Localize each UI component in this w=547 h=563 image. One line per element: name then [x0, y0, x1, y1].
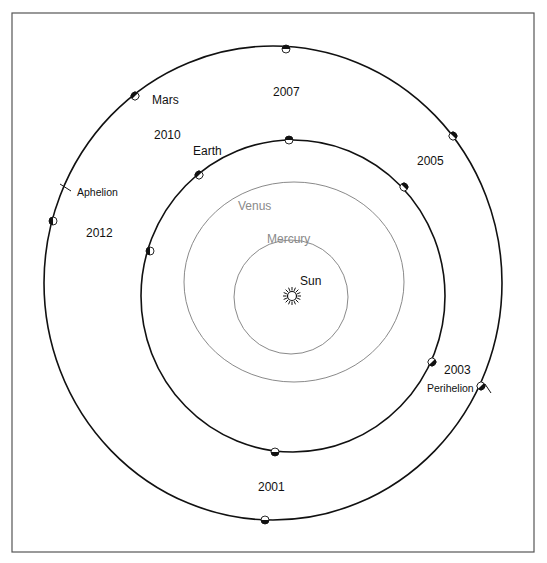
year-label-2001: 2001: [258, 480, 285, 494]
earth-position-marker: [285, 136, 293, 144]
mars-label: Mars: [152, 93, 179, 107]
sun-icon: [283, 287, 301, 305]
year-label-2007: 2007: [273, 85, 300, 99]
apsis-markers: [60, 184, 491, 393]
year-label-2003: 2003: [444, 363, 471, 377]
venus-orbit: [184, 182, 404, 382]
year-label-2005: 2005: [417, 154, 444, 168]
earth-label: Earth: [193, 144, 222, 158]
earth-position-marker: [398, 181, 409, 192]
mercury-label: Mercury: [267, 232, 310, 246]
year-label-2012: 2012: [86, 226, 113, 240]
sun-label: Sun: [300, 274, 321, 288]
mars-position-marker: [261, 516, 269, 524]
mars-position-marker: [49, 217, 57, 225]
perihelion-tick: [485, 384, 491, 393]
planet-position-markers: [49, 45, 487, 524]
diagram-labels: Sun Mercury Venus Earth Mars 2007 2010 2…: [77, 85, 474, 494]
venus-label: Venus: [238, 199, 271, 213]
orbit-diagram: Sun Mercury Venus Earth Mars 2007 2010 2…: [0, 0, 547, 563]
earth-position-marker: [271, 448, 279, 456]
earth-position-marker: [146, 247, 154, 255]
year-label-2010: 2010: [154, 128, 181, 142]
mars-position-marker: [282, 45, 290, 53]
aphelion-label: Aphelion: [77, 186, 118, 198]
perihelion-label: Perihelion: [427, 382, 474, 394]
mars-position-marker: [129, 90, 140, 101]
